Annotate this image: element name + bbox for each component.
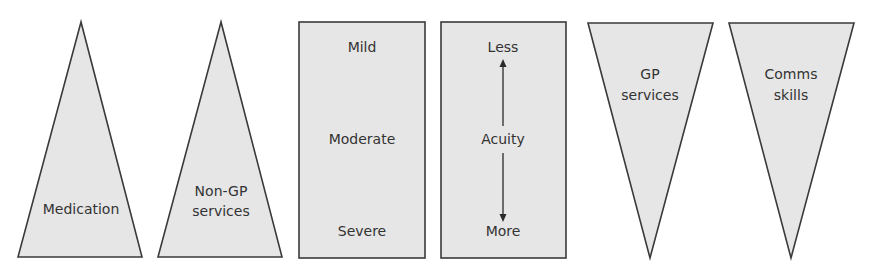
- comms-skills-triangle: Comms skills: [729, 23, 854, 258]
- gp-label-line2: services: [621, 87, 678, 103]
- severity-mild-label: Mild: [348, 39, 377, 55]
- comms-label-line1: Comms: [765, 66, 818, 82]
- upward-triangle-shape: [158, 22, 282, 257]
- diagram-canvas: Medication Non-GP services Mild Moderate…: [0, 0, 875, 280]
- medication-label: Medication: [43, 201, 120, 217]
- acuity-more-label: More: [486, 223, 521, 239]
- severity-moderate-label: Moderate: [329, 131, 396, 147]
- non-gp-label-line1: Non-GP: [195, 183, 248, 199]
- non-gp-services-triangle: Non-GP services: [158, 22, 282, 257]
- acuity-box: Less Acuity More: [441, 22, 566, 258]
- gp-services-triangle: GP services: [588, 23, 713, 258]
- gp-label-line1: GP: [640, 66, 659, 82]
- comms-label-line2: skills: [774, 87, 808, 103]
- non-gp-label-line2: services: [192, 203, 249, 219]
- acuity-label: Acuity: [481, 131, 525, 147]
- severity-severe-label: Severe: [338, 223, 386, 239]
- downward-triangle-shape: [588, 23, 713, 258]
- acuity-less-label: Less: [488, 39, 519, 55]
- severity-box: Mild Moderate Severe: [299, 22, 425, 258]
- medication-triangle: Medication: [18, 22, 142, 257]
- upward-triangle-shape: [18, 22, 142, 257]
- downward-triangle-shape: [729, 23, 854, 258]
